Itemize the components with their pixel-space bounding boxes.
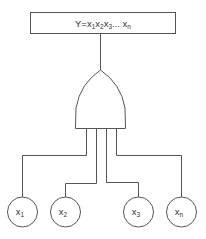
wire-x1 [23, 129, 87, 198]
input-node-xn: xn [167, 197, 197, 227]
input-node-x3: x3 [124, 197, 154, 227]
wire-x2 [66, 129, 97, 198]
svg-text:x3: x3 [132, 206, 141, 218]
input-node-x1: x1 [8, 197, 38, 227]
input-node-x2: x2 [51, 197, 81, 227]
svg-text:x2: x2 [59, 206, 68, 218]
wire-x3 [107, 129, 139, 198]
wire-xn [117, 129, 182, 198]
fault-tree-diagram: Y=x1x2x3... xn x1 x2 x3 xn [0, 0, 206, 239]
or-gate [76, 70, 126, 129]
output-label: Y=x1x2x3... xn [75, 18, 131, 30]
svg-text:xn: xn [175, 206, 184, 218]
svg-text:x1: x1 [16, 206, 25, 218]
